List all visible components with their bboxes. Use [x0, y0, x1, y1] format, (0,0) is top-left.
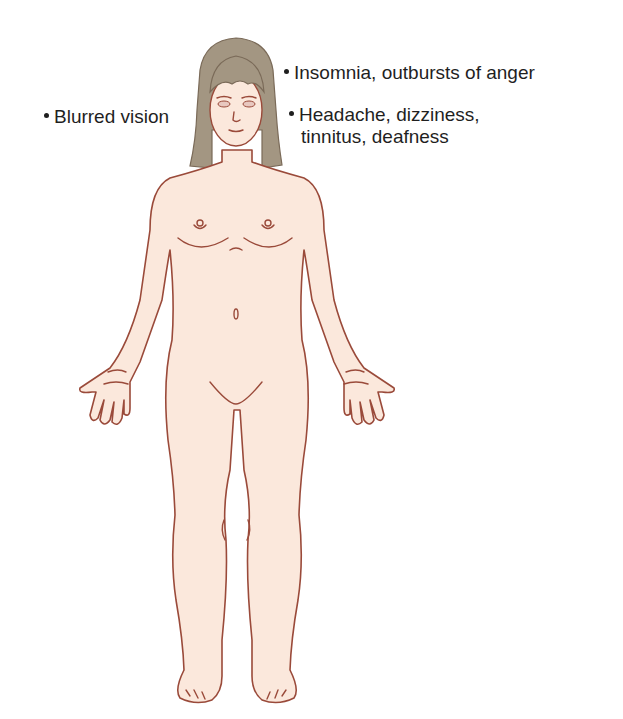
bullet-icon [284, 69, 289, 74]
bullet-icon [289, 111, 294, 116]
symptom-label-blurred-vision: Blurred vision [44, 106, 169, 128]
symptom-label-headache: Headache, dizziness, tinnitus, deafness [289, 104, 480, 148]
symptom-text-line2: tinnitus, deafness [289, 126, 480, 148]
symptom-text: Insomnia, outbursts of anger [294, 62, 535, 83]
symptom-text-line1: Headache, dizziness, [299, 104, 480, 125]
body-outline [80, 150, 395, 703]
left-eye [218, 101, 230, 107]
bullet-icon [44, 113, 49, 118]
symptom-label-insomnia: Insomnia, outbursts of anger [284, 62, 535, 84]
symptom-text: Blurred vision [54, 106, 169, 127]
right-eye [243, 101, 255, 107]
